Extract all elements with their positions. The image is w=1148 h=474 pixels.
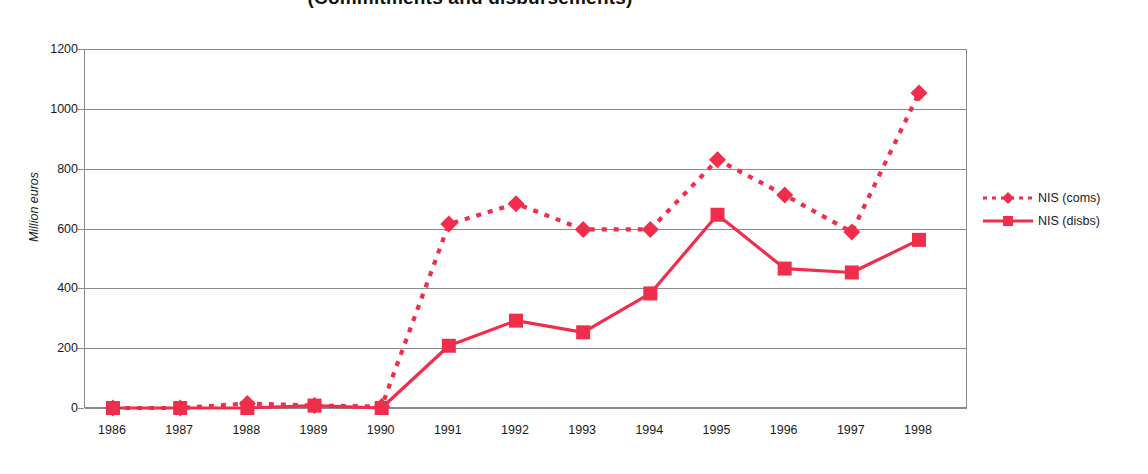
gridlines (85, 50, 967, 409)
y-axis-tick-mark (77, 348, 84, 349)
y-axis-tick-labels: 020040060080010001200 (16, 49, 78, 408)
plot-area (84, 49, 966, 408)
y-axis-tick-mark (77, 288, 84, 289)
y-axis-tick-mark (77, 229, 84, 230)
chart-legend: NIS (coms)NIS (disbs) (982, 186, 1142, 232)
y-axis-tick-label: 800 (26, 162, 78, 176)
y-axis-tick-label: 1200 (26, 42, 78, 56)
y-axis-tick-label: 600 (26, 222, 78, 236)
legend-label: NIS (coms) (1034, 191, 1101, 205)
y-axis-tick-label: 200 (26, 341, 78, 355)
legend-item-coms[interactable]: NIS (coms) (982, 186, 1142, 209)
series-disbs (106, 208, 926, 415)
plot-svg (85, 49, 967, 408)
y-axis-tick-label: 0 (26, 401, 78, 415)
y-axis-tick-label: 400 (26, 281, 78, 295)
legend-item-disbs[interactable]: NIS (disbs) (982, 209, 1142, 232)
legend-diamond-icon (982, 191, 1034, 205)
x-axis-tick-label: 1998 (878, 423, 958, 437)
y-axis-tick-mark (77, 49, 84, 50)
chart-title: (Commitments and disbursements) (0, 0, 940, 9)
series-coms (105, 84, 928, 416)
y-axis-tick-label: 1000 (26, 102, 78, 116)
y-axis-tick-mark (77, 408, 84, 409)
y-axis-tick-mark (77, 169, 84, 170)
legend-square-icon (982, 214, 1034, 228)
legend-label: NIS (disbs) (1034, 214, 1100, 228)
y-axis-tick-mark (77, 109, 84, 110)
line-chart: (Commitments and disbursements) Million … (0, 0, 1148, 474)
